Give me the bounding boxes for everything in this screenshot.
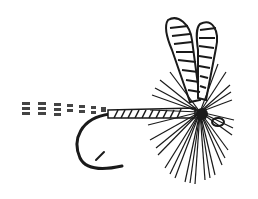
fishing-fly-illustration (0, 0, 258, 199)
hook (77, 114, 122, 168)
tail (22, 102, 106, 116)
wings (166, 18, 217, 102)
